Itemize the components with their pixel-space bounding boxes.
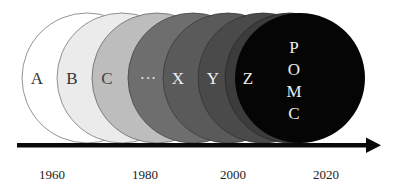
tick-1980: 1980 xyxy=(132,167,158,182)
label-c: C xyxy=(101,69,112,88)
label-ellipsis: ··· xyxy=(140,69,157,88)
label-pomc-o: O xyxy=(288,60,300,79)
label-b: B xyxy=(66,69,77,88)
tick-2000: 2000 xyxy=(220,167,246,182)
arrowhead-icon xyxy=(366,138,381,154)
label-z: Z xyxy=(243,69,253,88)
label-a: A xyxy=(31,69,44,88)
tick-2020: 2020 xyxy=(313,167,339,182)
label-pomc-m: M xyxy=(286,82,301,101)
label-y: Y xyxy=(207,69,219,88)
timeline-diagram: A B C ··· X Y Z P O M C 1960 1980 2000 2… xyxy=(0,0,395,187)
tick-1960: 1960 xyxy=(39,167,65,182)
diagram-canvas: A B C ··· X Y Z P O M C 1960 1980 2000 2… xyxy=(0,0,395,187)
label-pomc-p: P xyxy=(289,38,298,57)
label-pomc-c: C xyxy=(288,104,299,123)
label-x: X xyxy=(172,69,184,88)
